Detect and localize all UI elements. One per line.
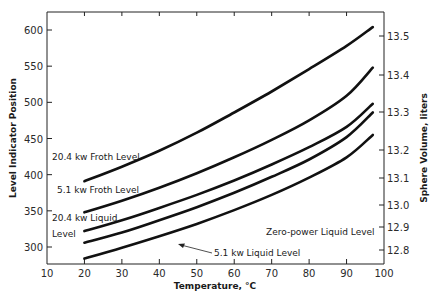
y-tick-label: 450 (24, 134, 43, 145)
y2-tick-label: 13.5 (387, 31, 409, 42)
y2-tick-label: 12.8 (387, 245, 409, 256)
annotation-5-1kw-liquid: 5.1 kw Liquid Level (214, 248, 300, 258)
annotation-20-4kw-liquid: 20.4 kw Liquid (52, 213, 117, 223)
x-tick-label: 70 (265, 268, 278, 279)
x-tick-label: 60 (228, 268, 241, 279)
x-tick-label: 40 (153, 268, 166, 279)
annotation-zero-power-liquid: Zero-power Liquid Level (266, 227, 375, 237)
y2-tick-label: 13.1 (387, 173, 409, 184)
x-tick-label: 10 (41, 268, 54, 279)
annotation-5-1kw-froth: 5.1 kw Froth Level (57, 185, 139, 195)
annotation-arrow (178, 244, 212, 254)
y-tick-label: 600 (24, 25, 43, 36)
chart: 102030405060708090100 300350400450500550… (0, 0, 433, 303)
x-tick-label: 20 (78, 268, 91, 279)
x-tick-label: 50 (190, 268, 203, 279)
x-tick-label: 100 (374, 268, 393, 279)
series-line-3 (84, 113, 372, 243)
y-tick-label: 550 (24, 61, 43, 72)
x-tick-label: 90 (340, 268, 353, 279)
y-tick-label: 500 (24, 97, 43, 108)
y-tick-label: 300 (24, 242, 43, 253)
y2-tick-label: 12.9 (387, 222, 409, 233)
x-tick-label: 80 (303, 268, 316, 279)
annotation-20-4kw-liquid-level: Level (52, 229, 76, 239)
y-tick-label: 400 (24, 170, 43, 181)
y-axis-ticks: 300350400450500550600 (24, 25, 52, 253)
y2-tick-label: 13.0 (387, 200, 409, 211)
x-tick-label: 30 (116, 268, 129, 279)
y2-tick-label: 13.2 (387, 145, 409, 156)
y-tick-label: 350 (24, 206, 43, 217)
annotation-20-4kw-froth: 20.4 kw Froth Level (52, 152, 140, 162)
y2-tick-label: 13.4 (387, 70, 409, 81)
y2-axis-label: Sphere Volume, liters (419, 93, 429, 203)
x-axis-label: Temperature, °C (174, 281, 257, 291)
y-axis-label: Level Indicator Position (8, 78, 18, 198)
data-series (84, 27, 372, 259)
y2-tick-label: 13.3 (387, 107, 409, 118)
